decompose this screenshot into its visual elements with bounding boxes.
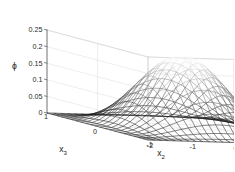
surface-mesh-segment bbox=[73, 117, 80, 118]
surface-mesh-segment bbox=[118, 109, 123, 110]
surface-mesh-segment bbox=[121, 130, 126, 131]
surface-mesh-segment bbox=[175, 131, 180, 136]
surface-mesh-segment bbox=[83, 118, 90, 120]
surface-mesh-segment bbox=[215, 115, 220, 116]
surface-mesh-segment bbox=[138, 130, 145, 132]
surface-mesh-segment bbox=[192, 92, 199, 98]
surface-mesh-segment bbox=[176, 102, 183, 105]
surface-mesh-segment bbox=[128, 128, 133, 130]
surface-mesh-segment bbox=[90, 124, 97, 125]
surface-mesh-segment bbox=[173, 64, 180, 68]
surface-mesh-segment bbox=[196, 111, 203, 114]
surface-mesh-segment bbox=[123, 122, 130, 126]
surface-mesh-segment bbox=[148, 85, 153, 88]
surface-mesh-segment bbox=[110, 129, 117, 130]
surface-mesh-segment bbox=[76, 120, 83, 121]
surface-mesh-segment bbox=[173, 114, 180, 115]
surface-mesh-segment bbox=[195, 126, 202, 127]
surface-mesh-segment bbox=[215, 96, 220, 98]
surface-mesh-segment bbox=[144, 101, 151, 109]
surface-mesh-segment bbox=[150, 76, 155, 77]
surface-mesh-segment bbox=[139, 106, 144, 112]
surface-mesh-segment bbox=[116, 129, 121, 130]
surface-mesh-segment bbox=[183, 99, 188, 105]
surface-mesh-segment bbox=[204, 89, 209, 93]
surface-mesh-segment bbox=[100, 127, 105, 128]
surface-mesh-segment bbox=[163, 125, 170, 128]
x3-tick-label: 0 bbox=[93, 127, 97, 136]
surface-mesh-segment bbox=[161, 132, 168, 133]
surface-mesh-segment bbox=[114, 130, 121, 131]
surface-mesh-segment bbox=[154, 135, 159, 137]
surface-mesh-segment bbox=[185, 108, 190, 112]
surface-mesh-segment bbox=[94, 119, 99, 120]
surface-mesh-segment bbox=[109, 122, 114, 123]
surface-mesh-segment bbox=[166, 114, 173, 115]
surface-mesh-segment bbox=[153, 113, 160, 118]
surface-mesh-segment bbox=[85, 118, 90, 119]
z-tick-label: 0.25 bbox=[29, 25, 43, 34]
surface-mesh-segment bbox=[154, 134, 161, 135]
surface-mesh-segment bbox=[210, 81, 215, 92]
surface-mesh-segment bbox=[95, 125, 102, 126]
surface-mesh-segment bbox=[110, 130, 115, 131]
surface-mesh-segment bbox=[88, 121, 93, 122]
surface-mesh-segment bbox=[220, 113, 225, 114]
surface-mesh-segment bbox=[138, 132, 143, 134]
surface-mesh-segment bbox=[116, 126, 123, 129]
surface-mesh-segment bbox=[152, 112, 159, 113]
x2-tick-label: -2 bbox=[147, 141, 153, 150]
surface-mesh-segment bbox=[90, 125, 95, 126]
surface-mesh-segment bbox=[173, 136, 180, 137]
surface-mesh-segment bbox=[97, 124, 102, 125]
surface-mesh-segment bbox=[116, 117, 121, 118]
surface-mesh-segment bbox=[179, 135, 186, 136]
surface-mesh-segment bbox=[140, 123, 147, 127]
surface-mesh-segment bbox=[105, 128, 110, 129]
surface-mesh-segment bbox=[181, 60, 186, 65]
surface-mesh-segment bbox=[136, 134, 143, 135]
surface-mesh-segment bbox=[126, 132, 131, 133]
x2-axis-title: x2 bbox=[157, 148, 165, 160]
surface-mesh-segment bbox=[75, 116, 80, 117]
surface-mesh-segment bbox=[80, 117, 85, 118]
surface-mesh-segment bbox=[192, 105, 197, 116]
surface-mesh-segment bbox=[125, 120, 130, 122]
surface-mesh bbox=[47, 56, 234, 145]
surface-mesh-segment bbox=[142, 134, 147, 136]
surface-mesh-segment bbox=[214, 134, 219, 140]
surface-mesh-segment bbox=[186, 59, 191, 61]
x2-tick-label: 0 bbox=[234, 144, 235, 153]
surface-mesh-segment bbox=[147, 118, 154, 123]
z-tick-label: 0.05 bbox=[29, 92, 43, 101]
surface-mesh-segment bbox=[168, 131, 175, 132]
z-axis-title-phi: ϕ bbox=[12, 61, 17, 71]
surface-mesh-segment bbox=[188, 127, 195, 128]
surface-mesh-segment bbox=[85, 123, 90, 124]
surface-mesh-segment bbox=[201, 104, 206, 108]
surface-mesh-segment bbox=[195, 71, 200, 75]
surface-mesh-segment bbox=[155, 100, 162, 107]
surface-mesh-segment bbox=[126, 130, 133, 132]
surface-mesh-segment bbox=[107, 123, 114, 126]
surface-mesh-segment bbox=[99, 120, 104, 121]
surface-mesh-segment bbox=[102, 125, 107, 126]
surface-mesh-segment bbox=[183, 120, 188, 128]
surface-mesh-segment bbox=[81, 122, 86, 123]
surface-mesh-segment bbox=[114, 123, 119, 124]
surface-mesh-segment bbox=[220, 134, 225, 140]
surface-mesh-segment bbox=[177, 120, 184, 123]
z-tick-label: 0.15 bbox=[29, 59, 43, 68]
surface-mesh-segment bbox=[173, 110, 178, 114]
surface-mesh-segment bbox=[136, 93, 141, 94]
surface-mesh-segment bbox=[206, 100, 211, 103]
surface-mesh-segment bbox=[178, 74, 183, 83]
surface-mesh-segment bbox=[170, 63, 175, 70]
surface-mesh-segment bbox=[119, 132, 126, 133]
surface-mesh-segment bbox=[217, 105, 222, 107]
surface-mesh-segment bbox=[78, 118, 85, 119]
surface-mesh-segment bbox=[178, 71, 185, 75]
surface-mesh-segment bbox=[180, 115, 187, 116]
surface-mesh-segment bbox=[160, 79, 165, 89]
surface-mesh-segment bbox=[203, 79, 208, 90]
